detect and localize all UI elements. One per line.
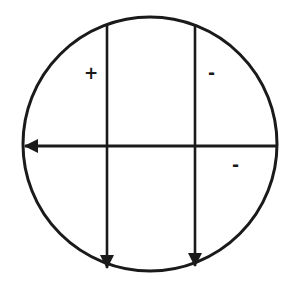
- minus-label-upper-right: -: [208, 63, 215, 83]
- plus-label-upper-left: +: [84, 63, 98, 83]
- diagram-canvas: + - -: [0, 0, 292, 287]
- outer-circle: [23, 17, 277, 271]
- minus-label-lower-right: -: [232, 155, 239, 175]
